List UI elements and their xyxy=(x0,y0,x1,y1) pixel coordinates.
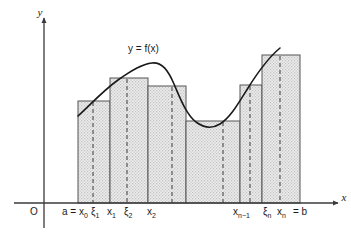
riemann-bar xyxy=(186,121,240,203)
riemann-bar xyxy=(148,86,186,203)
label-xi2: ξ2 xyxy=(124,206,132,219)
partition-labels-group: a = x0ξ1x1ξ2x2xn−1ξnxn= b xyxy=(62,206,308,219)
label-x1: x1 xyxy=(107,206,116,219)
label-x2: x2 xyxy=(147,206,156,219)
label-xn: xn xyxy=(277,206,286,219)
riemann-bar xyxy=(262,55,300,203)
origin-label: O xyxy=(30,206,38,217)
x-axis-label: x xyxy=(341,191,347,203)
riemann-bar xyxy=(110,78,148,203)
y-axis-label: y xyxy=(37,6,43,18)
label-xi1: ξ1 xyxy=(91,206,99,219)
riemann-bar xyxy=(240,85,262,203)
label-xin: ξn xyxy=(263,206,271,219)
figure-canvas: y x O y = f(x) a = x0ξ1x1ξ2x2xn−1ξnxn= b xyxy=(0,0,351,244)
label-equals-b: = b xyxy=(293,206,308,217)
riemann-sum-figure: y x O y = f(x) a = x0ξ1x1ξ2x2xn−1ξnxn= b xyxy=(0,0,351,244)
riemann-bar xyxy=(78,101,110,203)
curve-equation-label: y = f(x) xyxy=(128,43,159,54)
label-a-x0: a = x0 xyxy=(62,206,88,219)
label-xn-1: xn−1 xyxy=(233,206,250,219)
riemann-bars-group xyxy=(78,55,300,203)
